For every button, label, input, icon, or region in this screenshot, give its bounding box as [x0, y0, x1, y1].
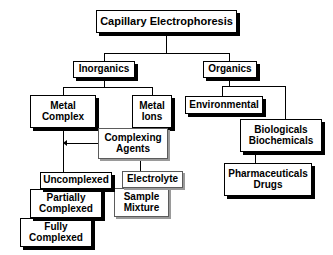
node-label-line-2: Agents: [116, 144, 150, 154]
node-label-line-1: Biologicals: [254, 125, 307, 135]
connector-to-metal-ions: [152, 87, 153, 95]
node-label-line-1: Partially: [47, 193, 86, 203]
connector-organics-down: [229, 78, 230, 86]
node-label-line-1: Metal: [139, 101, 165, 111]
connector-inorganics-down: [104, 78, 105, 87]
node-label-line-1: Fully: [44, 222, 67, 232]
node-environmental[interactable]: Environmental: [185, 96, 263, 114]
connector-to-environmental: [222, 86, 223, 96]
node-label: Capillary Electrophoresis: [100, 16, 233, 27]
node-label-line-2: Complex: [42, 112, 84, 122]
node-label: Environmental: [189, 100, 258, 110]
node-pharmaceuticals-drugs[interactable]: Pharmaceuticals Drugs: [224, 163, 312, 196]
node-inorganics[interactable]: Inorganics: [73, 61, 135, 78]
node-label: Electrolyte: [127, 174, 178, 184]
flow-chart-diagram: Capillary Electrophoresis Inorganics Org…: [0, 0, 333, 255]
node-label-line-2: Mixture: [124, 203, 160, 213]
node-organics[interactable]: Organics: [203, 61, 257, 78]
node-label: Organics: [208, 64, 251, 74]
connector-root-down: [166, 33, 167, 53]
connector-biologicals-down: [255, 152, 256, 163]
connector-root-horizontal: [104, 53, 229, 54]
node-label-line-2: Drugs: [254, 180, 283, 190]
node-label-line-2: Complexed: [29, 233, 83, 243]
node-electrolyte[interactable]: Electrolyte: [122, 171, 183, 188]
connector-inorganics-horizontal: [63, 87, 152, 88]
connector-complexing-arrow-line: [67, 143, 98, 144]
connector-to-inorganics: [104, 53, 105, 61]
node-label-line-2: Ions: [142, 112, 163, 122]
complexing-arrowhead-icon: [63, 140, 67, 146]
connector-complexing-down: [140, 159, 141, 171]
node-label: Inorganics: [79, 64, 130, 74]
node-partially-complexed[interactable]: Partially Complexed: [30, 189, 102, 218]
node-label-line-1: Sample: [124, 192, 160, 202]
node-biologicals-biochemicals[interactable]: Biologicals Biochemicals: [240, 119, 322, 152]
connector-to-metal-complex: [63, 87, 64, 95]
node-metal-complex[interactable]: Metal Complex: [30, 95, 96, 128]
node-label-line-1: Metal: [50, 101, 76, 111]
node-fully-complexed[interactable]: Fully Complexed: [20, 218, 92, 247]
node-label-line-2: Complexed: [39, 204, 93, 214]
node-capillary-electrophoresis[interactable]: Capillary Electrophoresis: [96, 10, 237, 33]
node-metal-ions[interactable]: Metal Ions: [132, 95, 172, 128]
node-complexing-agents[interactable]: Complexing Agents: [98, 128, 168, 159]
node-sample-mixture[interactable]: Sample Mixture: [114, 188, 169, 217]
node-label-line-2: Biochemicals: [249, 136, 313, 146]
node-label-line-1: Complexing: [104, 133, 161, 143]
connector-to-organics: [229, 53, 230, 61]
node-label: Uncomplexed: [43, 175, 109, 185]
node-label-line-1: Pharmaceuticals: [228, 169, 308, 179]
connector-metal-complex-down: [63, 128, 64, 172]
connector-to-biologicals: [285, 86, 286, 119]
connector-organics-horizontal: [222, 86, 285, 87]
node-uncomplexed[interactable]: Uncomplexed: [40, 172, 112, 189]
